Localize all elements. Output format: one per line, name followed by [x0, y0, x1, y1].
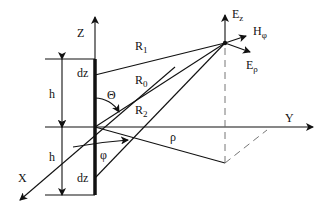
phi-label: φ — [100, 149, 107, 161]
rho-label: ρ — [170, 131, 176, 143]
x-axis-label: X — [18, 172, 27, 184]
dipole-diagram: Z Y X dz dz h h Θ φ ρ R1 R0 R2 Ez Hφ Eρ — [0, 0, 331, 213]
r2-label: R2 — [135, 104, 148, 116]
dz-top-label: dz — [77, 67, 88, 79]
x-axis — [20, 67, 175, 200]
h-bottom-label: h — [49, 151, 55, 163]
h-top-label: h — [49, 88, 55, 100]
diagram-lines — [0, 0, 331, 213]
r1-line — [95, 43, 225, 75]
r0-line — [95, 43, 225, 127]
hphi-label: Hφ — [253, 25, 267, 37]
theta-label: Θ — [107, 89, 116, 101]
r1-label: R1 — [135, 40, 148, 52]
dz-bottom-label: dz — [77, 172, 88, 184]
z-axis-label: Z — [77, 27, 84, 39]
ez-label: Ez — [232, 8, 243, 20]
r0-label: R0 — [135, 74, 148, 86]
erho-label: Eρ — [246, 59, 258, 71]
y-axis-label: Y — [285, 112, 294, 124]
